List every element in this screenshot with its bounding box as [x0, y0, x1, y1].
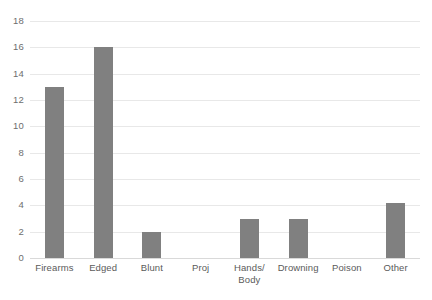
x-axis: FirearmsEdgedBluntProjHands/BodyDrowning… — [30, 262, 420, 296]
bar — [240, 219, 259, 259]
x-tick-label-line: Proj — [176, 262, 225, 274]
bar — [289, 219, 308, 259]
y-tick-label: 12 — [0, 95, 24, 105]
y-tick-label: 6 — [0, 174, 24, 184]
bar-chart: 024681012141618 FirearmsEdgedBluntProjHa… — [0, 0, 432, 300]
plot-area — [30, 21, 420, 258]
x-tick-label-line: Drowning — [274, 262, 323, 274]
x-tick-label: Blunt — [128, 262, 177, 274]
y-tick-label: 16 — [0, 43, 24, 53]
bar — [94, 47, 113, 258]
x-tick-label: Drowning — [274, 262, 323, 274]
x-tick-label: Firearms — [30, 262, 79, 274]
x-tick-label-line: Firearms — [30, 262, 79, 274]
x-tick-label: Proj — [176, 262, 225, 274]
x-tick-label: Hands/Body — [225, 262, 274, 286]
bar — [386, 203, 405, 258]
y-tick-label: 8 — [0, 148, 24, 158]
bars — [30, 21, 420, 258]
axis-baseline — [30, 258, 420, 259]
x-tick-label: Poison — [323, 262, 372, 274]
x-tick-label-line: Edged — [79, 262, 128, 274]
x-tick-label-line: Other — [371, 262, 420, 274]
y-tick-label: 2 — [0, 227, 24, 237]
bar — [142, 232, 161, 258]
y-tick-label: 0 — [0, 253, 24, 263]
y-tick-label: 18 — [0, 16, 24, 26]
x-tick-label: Edged — [79, 262, 128, 274]
y-tick-label: 10 — [0, 122, 24, 132]
x-tick-label-line: Body — [225, 274, 274, 286]
y-tick-label: 4 — [0, 201, 24, 211]
bar — [45, 87, 64, 258]
x-tick-label: Other — [371, 262, 420, 274]
x-tick-label-line: Blunt — [128, 262, 177, 274]
x-tick-label-line: Poison — [323, 262, 372, 274]
y-axis: 024681012141618 — [0, 21, 24, 258]
y-tick-label: 14 — [0, 69, 24, 79]
x-tick-label-line: Hands/ — [225, 262, 274, 274]
